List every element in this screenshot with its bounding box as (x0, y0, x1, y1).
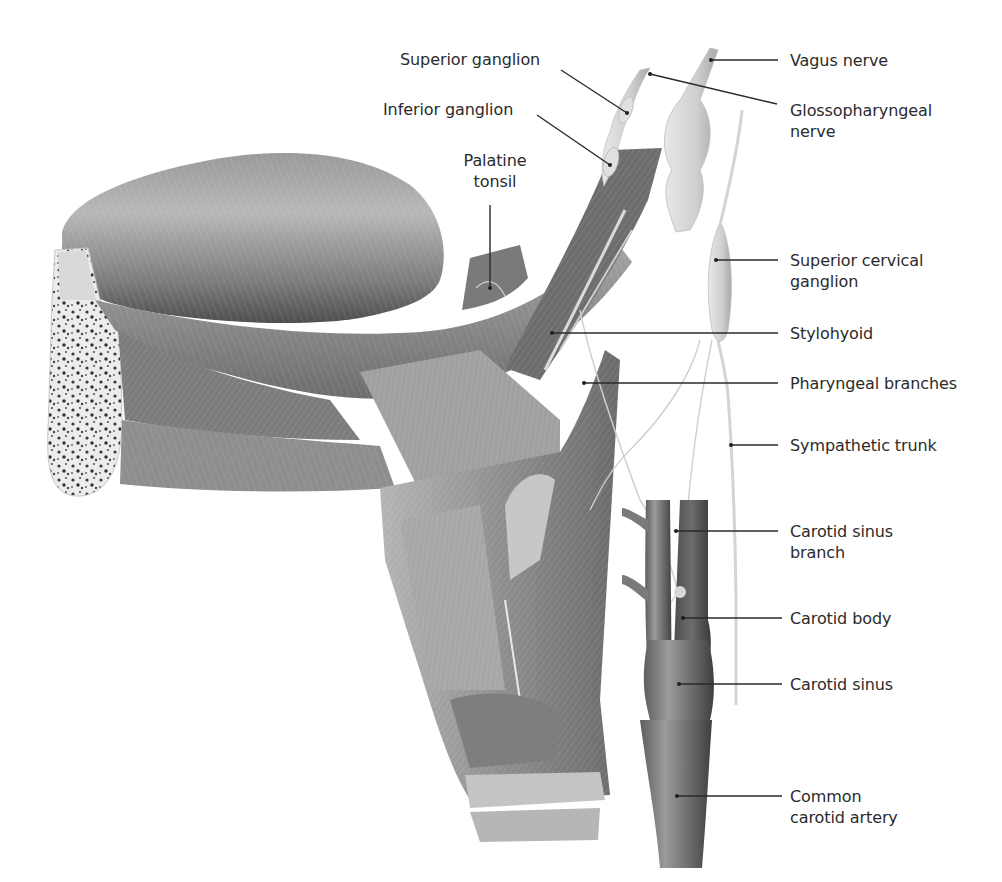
label-carotid-sinus: Carotid sinus (790, 674, 893, 695)
label-vagus-nerve: Vagus nerve (790, 50, 888, 71)
label-carotid-sinus-branch: Carotid sinus branch (790, 521, 893, 563)
leader-glossopharyngeal-nerve (650, 74, 777, 104)
tongue (62, 153, 444, 323)
label-stylohyoid: Stylohyoid (790, 323, 873, 344)
label-common-carotid-artery: Common carotid artery (790, 786, 898, 828)
leader-superior-ganglion (561, 70, 627, 113)
label-carotid-body: Carotid body (790, 608, 891, 629)
label-sympathetic-trunk: Sympathetic trunk (790, 435, 937, 456)
palatine-tonsil-shape (462, 245, 528, 310)
label-superior-cervical-ganglion: Superior cervical ganglion (790, 250, 923, 292)
sympathetic-trunk (708, 110, 742, 705)
label-palatine-tonsil: Palatine tonsil (450, 150, 540, 192)
label-inferior-ganglion: Inferior ganglion (383, 99, 513, 120)
label-glossopharyngeal-nerve: Glossopharyngeal nerve (790, 100, 932, 142)
label-pharyngeal-branches: Pharyngeal branches (790, 373, 957, 394)
leader-inferior-ganglion (537, 115, 610, 165)
label-superior-ganglion: Superior ganglion (400, 49, 540, 70)
vagus-nerve (664, 48, 718, 232)
